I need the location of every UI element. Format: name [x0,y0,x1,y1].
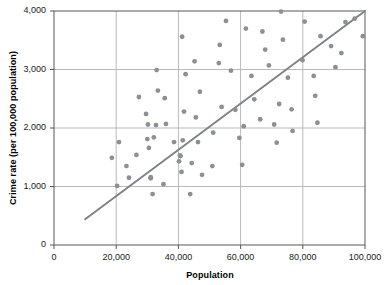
data-point [151,135,156,140]
data-point [300,58,305,63]
data-point [109,155,114,160]
data-point [233,107,238,112]
data-point [196,140,201,145]
y-tick-label: 3,000 [23,64,46,74]
data-point [267,63,272,68]
x-axis-title: Population [186,270,234,280]
data-point [249,74,254,79]
data-point [180,138,185,143]
data-point [178,154,183,159]
y-axis-title: Crime rate (per 100,000 population) [8,51,18,205]
data-point [311,74,316,79]
data-point [279,9,284,14]
data-point [260,29,265,34]
y-tick-label: 2,000 [23,122,46,132]
data-point [216,61,221,66]
data-point [263,47,268,52]
data-point [285,75,290,80]
data-point [144,112,149,117]
data-point [177,159,182,164]
data-point [146,145,151,150]
y-tick-label: 0 [41,239,46,249]
data-point [210,164,215,169]
data-point [179,169,184,174]
scatter-plot-figure: 020,00040,00060,00080,000100,000 01,0002… [0,0,387,285]
x-tick-label: 60,000 [227,252,255,262]
data-point [192,59,197,64]
data-point [124,164,129,169]
data-point [258,117,263,122]
data-point [145,137,150,142]
data-point [197,89,202,94]
data-point [188,192,193,197]
data-point [240,162,245,167]
data-point [352,16,357,21]
y-tick-label: 1,000 [23,181,46,191]
x-tick-label: 0 [51,252,56,262]
data-point [211,130,216,135]
data-point [162,96,167,101]
data-point [237,136,242,141]
data-point [127,175,132,180]
data-point [172,140,177,145]
data-point [224,19,229,24]
data-point [189,161,194,166]
data-point [146,122,151,127]
data-point [180,34,185,39]
data-point [339,51,344,56]
data-point [217,43,222,48]
data-point [182,109,187,114]
data-point [280,37,285,42]
data-point [148,175,153,180]
y-tick-label: 4,000 [23,5,46,15]
x-tick-label: 100,000 [349,252,382,262]
data-point [302,19,307,24]
data-point [115,184,120,189]
data-point [329,44,334,49]
data-point [274,140,279,145]
data-point [333,65,338,70]
data-point [241,124,246,129]
data-point [219,105,224,110]
data-point [290,129,295,134]
data-point [134,153,139,158]
data-point [272,122,277,127]
data-point [289,107,294,112]
data-point [343,20,348,25]
data-point [277,102,282,107]
data-point [318,34,323,39]
data-point [183,72,188,77]
data-point [137,95,142,100]
chart-canvas: 020,00040,00060,00080,000100,000 01,0002… [0,0,387,285]
data-point [154,68,159,73]
y-tick-labels: 01,0002,0003,0004,000 [23,5,46,249]
x-tick-label: 40,000 [165,252,193,262]
data-point [229,68,234,73]
x-tick-label: 20,000 [102,252,130,262]
data-point [164,122,169,127]
data-point [360,34,365,39]
data-point [155,88,160,93]
data-point [252,97,257,102]
data-point [150,192,155,197]
data-point [200,172,205,177]
data-point [161,182,166,187]
data-point [313,93,318,98]
x-tick-labels: 020,00040,00060,00080,000100,000 [51,252,381,262]
data-point [315,120,320,125]
data-point [154,123,159,128]
data-point [117,140,122,145]
x-tick-label: 80,000 [289,252,317,262]
data-point [243,26,248,31]
data-point [193,115,198,120]
